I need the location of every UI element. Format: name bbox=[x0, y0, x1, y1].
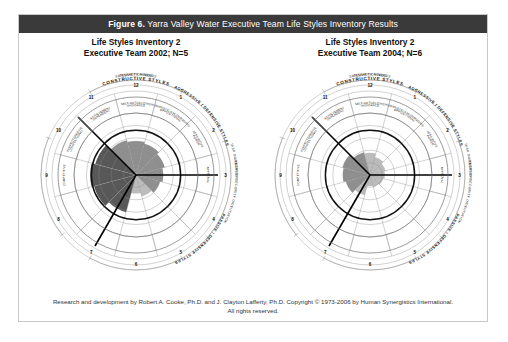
circumplex-chart-2002: HUMANISTIC-ENCOURAGINGAFFILIATIVEAPPROVA… bbox=[23, 65, 249, 287]
segment-number-5: 5 bbox=[413, 250, 416, 255]
chart-cell-2004: HUMANISTIC-ENCOURAGINGAFFILIATIVEAPPROVA… bbox=[253, 65, 487, 287]
panel-heading-2004-line1: Life Styles Inventory 2 bbox=[253, 37, 487, 48]
arc-label-aggressive-defensive-styles: AGGRESSIVE / DEFENSIVE STYLES bbox=[408, 84, 465, 146]
panel-heading-2004-line2: Executive Team 2004; N=6 bbox=[253, 48, 487, 59]
charts-row: HUMANISTIC-ENCOURAGINGAFFILIATIVEAPPROVA… bbox=[19, 65, 487, 287]
panel-heading-2004: Life Styles Inventory 2 Executive Team 2… bbox=[253, 37, 487, 59]
figure-title: Yarra Valley Water Executive Team Life S… bbox=[147, 19, 398, 29]
panel-heading-2002-line2: Executive Team 2002; N=5 bbox=[19, 48, 253, 59]
segment-label-10: PERFECTIONISTIC bbox=[300, 126, 318, 153]
segment-label-9: COMPETITIVE bbox=[62, 164, 67, 186]
segment-number-10: 10 bbox=[290, 128, 296, 133]
segment-number-9: 9 bbox=[279, 173, 282, 178]
footer-line-2: All rights reserved. bbox=[19, 306, 487, 315]
arc-label-aggressive-defensive-styles: AGGRESSIVE / DEFENSIVE STYLES bbox=[174, 84, 231, 146]
circumplex-chart-2004: HUMANISTIC-ENCOURAGINGAFFILIATIVEAPPROVA… bbox=[257, 65, 483, 287]
segment-label-3: APPROVAL bbox=[440, 166, 445, 183]
segment-number-6: 6 bbox=[135, 262, 138, 267]
segment-label-3: APPROVAL bbox=[206, 166, 211, 183]
segment-number-7: 7 bbox=[324, 250, 327, 255]
segment-number-12: 12 bbox=[133, 83, 139, 88]
segment-number-1: 1 bbox=[179, 95, 182, 100]
segment-number-9: 9 bbox=[45, 173, 48, 178]
segment-number-4: 4 bbox=[212, 217, 215, 222]
segment-label-9: COMPETITIVE bbox=[296, 164, 301, 186]
figure-title-bar: Figure 6. Yarra Valley Water Executive T… bbox=[19, 15, 487, 33]
segment-label-10: PERFECTIONISTIC bbox=[66, 126, 84, 153]
segment-number-7: 7 bbox=[90, 250, 93, 255]
segment-number-2: 2 bbox=[446, 128, 449, 133]
segment-number-1: 1 bbox=[413, 95, 416, 100]
figure-title-text: Figure 6. Yarra Valley Water Executive T… bbox=[108, 19, 398, 29]
segment-number-8: 8 bbox=[57, 217, 60, 222]
panel-headings: Life Styles Inventory 2 Executive Team 2… bbox=[19, 37, 487, 59]
figure-number: Figure 6. bbox=[108, 19, 145, 29]
panel-heading-2002: Life Styles Inventory 2 Executive Team 2… bbox=[19, 37, 253, 59]
panel-heading-2002-line1: Life Styles Inventory 2 bbox=[19, 37, 253, 48]
segment-number-8: 8 bbox=[291, 217, 294, 222]
segment-number-11: 11 bbox=[89, 95, 94, 100]
segment-number-10: 10 bbox=[56, 128, 62, 133]
segment-number-5: 5 bbox=[179, 250, 182, 255]
segment-number-6: 6 bbox=[369, 262, 372, 267]
segment-number-2: 2 bbox=[212, 128, 215, 133]
segment-number-3: 3 bbox=[458, 173, 461, 178]
chart-cell-2002: HUMANISTIC-ENCOURAGINGAFFILIATIVEAPPROVA… bbox=[19, 65, 253, 287]
figure-frame: Figure 6. Yarra Valley Water Executive T… bbox=[18, 14, 488, 322]
figure-footer: Research and development by Robert A. Co… bbox=[19, 297, 487, 315]
segment-number-4: 4 bbox=[446, 217, 449, 222]
segment-number-12: 12 bbox=[367, 83, 373, 88]
segment-number-3: 3 bbox=[224, 173, 227, 178]
segment-number-11: 11 bbox=[323, 95, 328, 100]
footer-line-1: Research and development by Robert A. Co… bbox=[19, 297, 487, 306]
